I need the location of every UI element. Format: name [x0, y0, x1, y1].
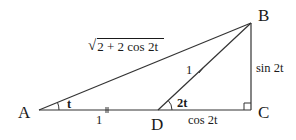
vertex-label-c: C — [258, 104, 269, 121]
angle-label-d: 2t — [177, 97, 187, 110]
sqrt-symbol: √ — [88, 38, 96, 53]
triangle-diagram: A B C D √ 2 + 2 cos 2t 1 1 cos 2t sin 2t… — [0, 0, 296, 140]
angle-label-a: t — [67, 98, 71, 111]
sqrt-expression: 2 + 2 cos 2t — [97, 38, 164, 53]
triangle-figure — [0, 0, 296, 140]
angle-arc-a — [58, 102, 60, 110]
vertex-label-d: D — [151, 116, 163, 133]
side-label-ad: 1 — [96, 114, 102, 127]
side-label-dc: cos 2t — [188, 114, 218, 127]
vertex-label-b: B — [258, 7, 269, 24]
side-label-db: 1 — [186, 64, 192, 77]
side-label-ab: √ 2 + 2 cos 2t — [88, 38, 164, 53]
right-angle-marker — [244, 103, 251, 110]
vertex-label-a: A — [18, 104, 30, 121]
angle-arc-d — [168, 100, 172, 110]
segment-db — [158, 23, 251, 110]
side-label-cb: sin 2t — [256, 62, 283, 75]
